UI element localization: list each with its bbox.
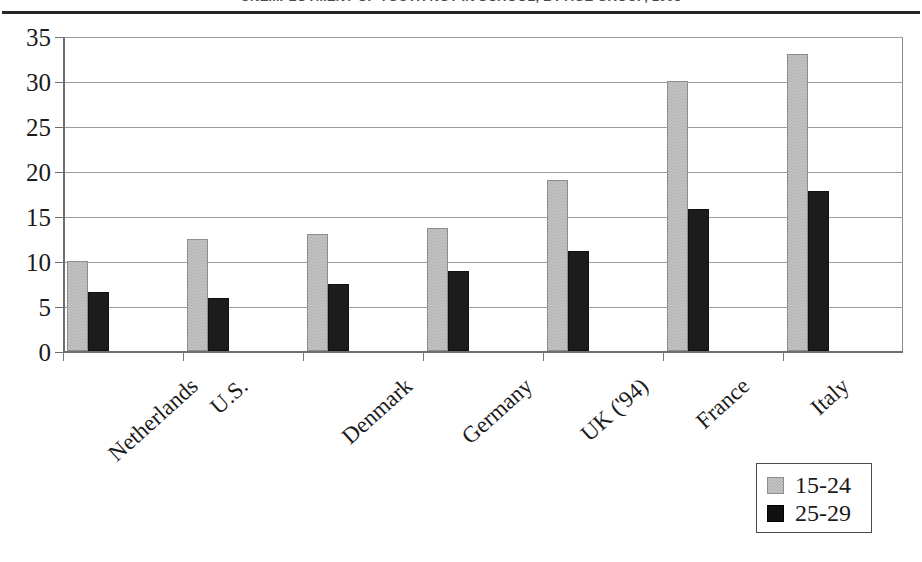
title-separator-rule (2, 11, 920, 14)
gridline (63, 37, 903, 38)
bar-25-29-Netherlands (88, 292, 109, 351)
x-axis-tick (303, 352, 304, 361)
bar-25-29-U.S. (208, 298, 229, 351)
x-axis-label-Netherlands: Netherlands (104, 374, 202, 465)
y-axis-tick-label: 15 (26, 205, 51, 230)
y-axis-tick-label: 10 (26, 250, 51, 275)
bar-15-24-Netherlands (67, 261, 88, 351)
bar-25-29-UK ('94) (568, 251, 589, 351)
chart-title: UNEMPLOYMENT OF YOUTH NOT IN SCHOOL, BY … (0, 0, 922, 3)
x-axis-label-Italy: Italy (806, 374, 853, 419)
x-axis-tick (663, 352, 664, 361)
bar-15-24-Denmark (307, 234, 328, 351)
y-axis-tick-label: 5 (39, 295, 52, 320)
bar-25-29-Germany (448, 271, 469, 351)
bar-25-29-Italy (808, 191, 829, 351)
x-axis-tick (63, 352, 64, 361)
x-axis-tick (423, 352, 424, 361)
y-axis-tick-label: 25 (26, 115, 51, 140)
bar-15-24-Italy (787, 54, 808, 351)
x-axis-label-Germany: Germany (458, 374, 537, 448)
y-axis-tick-label: 20 (26, 160, 51, 185)
bar-15-24-Germany (427, 228, 448, 351)
gridline (63, 127, 903, 128)
x-axis-tick (543, 352, 544, 361)
x-axis-label-UK ('94): UK ('94) (577, 374, 653, 446)
y-axis-tick-label: 0 (39, 340, 52, 365)
y-axis-tick-label: 30 (26, 70, 51, 95)
y-axis-tick (55, 352, 63, 353)
bar-15-24-U.S. (187, 239, 208, 352)
x-axis-label-France: France (692, 374, 754, 433)
gridline (63, 172, 903, 173)
legend-swatch-15-24 (767, 477, 784, 494)
bar-15-24-UK ('94) (547, 180, 568, 351)
y-axis-line (63, 37, 65, 352)
plot-area: 05101520253035 NetherlandsU.S.DenmarkGer… (63, 37, 903, 352)
gridline (63, 217, 903, 218)
legend: 15-24 25-29 (756, 463, 872, 533)
bar-25-29-Denmark (328, 284, 349, 352)
bar-25-29-France (688, 209, 709, 351)
x-axis-line (63, 351, 903, 353)
legend-swatch-25-29 (767, 505, 784, 522)
x-axis-label-Denmark: Denmark (338, 374, 417, 448)
legend-item: 25-29 (767, 499, 871, 527)
y-axis-tick (55, 82, 63, 83)
y-axis-tick (55, 37, 63, 38)
legend-label-25-29: 25-29 (795, 501, 851, 525)
x-axis-label-U.S.: U.S. (206, 374, 252, 418)
x-axis-tick (183, 352, 184, 361)
y-axis-tick (55, 172, 63, 173)
legend-item: 15-24 (767, 471, 871, 499)
bar-15-24-France (667, 81, 688, 351)
legend-label-15-24: 15-24 (795, 473, 851, 497)
y-axis-tick-label: 35 (26, 25, 51, 50)
y-axis-tick (55, 307, 63, 308)
y-axis-tick (55, 217, 63, 218)
x-axis-tick (783, 352, 784, 361)
y-axis-tick (55, 127, 63, 128)
y-axis-tick (55, 262, 63, 263)
gridline (63, 82, 903, 83)
